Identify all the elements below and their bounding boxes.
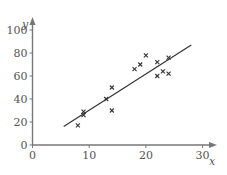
data-point-cross-icon: [144, 53, 148, 57]
x-tick-label: 30: [196, 149, 210, 162]
chart-canvas: 0102030020406080100 x y: [0, 0, 227, 175]
x-axis-label: x: [209, 155, 216, 168]
y-tick-label: 20: [14, 116, 28, 129]
x-tick-label: 0: [29, 149, 36, 162]
x-tick-label: 10: [82, 149, 96, 162]
data-point-cross-icon: [155, 74, 159, 78]
data-points: [76, 53, 171, 127]
data-point-cross-icon: [161, 69, 165, 73]
data-point-cross-icon: [76, 123, 80, 127]
data-point-cross-icon: [110, 109, 114, 113]
scatter-chart: 0102030020406080100 x y: [0, 0, 227, 175]
x-axis-arrow-icon: [209, 142, 217, 148]
x-tick-label: 20: [139, 149, 153, 162]
data-point-cross-icon: [133, 67, 137, 71]
data-point-cross-icon: [167, 72, 171, 76]
y-axis-label: y: [21, 18, 29, 31]
axes: [30, 17, 218, 148]
y-tick-label: 80: [14, 47, 28, 60]
data-point-cross-icon: [138, 63, 142, 67]
axis-ticks: 0102030020406080100: [7, 24, 210, 162]
data-point-cross-icon: [155, 60, 159, 64]
y-axis-arrow-icon: [30, 17, 36, 25]
y-tick-label: 0: [21, 139, 28, 152]
data-point-cross-icon: [110, 86, 114, 90]
y-tick-label: 40: [14, 93, 28, 106]
y-tick-label: 60: [14, 70, 28, 83]
